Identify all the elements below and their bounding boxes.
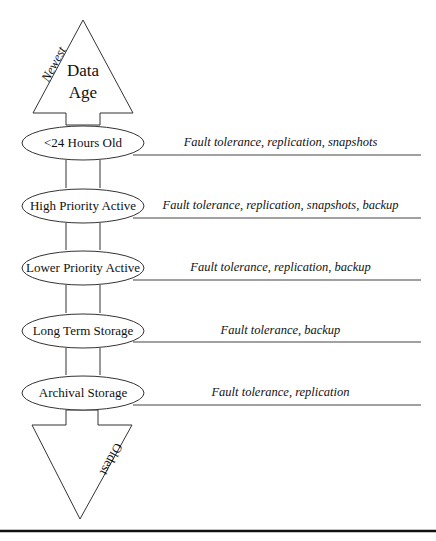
tier-label: Archival Storage (21, 385, 145, 401)
tier-protections: Fault tolerance, replication (140, 385, 421, 400)
title-line-2: Age (43, 82, 123, 104)
tier-protections: Fault tolerance, replication, snapshots (140, 135, 421, 150)
tier-label: Long Term Storage (21, 323, 145, 339)
tier-label: High Priority Active (21, 198, 145, 214)
tier-protections: Fault tolerance, replication, backup (140, 260, 421, 275)
leader-lines (133, 155, 421, 405)
tier-label: Lower Priority Active (21, 260, 145, 276)
tier-protections: Fault tolerance, replication, snapshots,… (140, 198, 421, 213)
tier-protections: Fault tolerance, backup (140, 323, 421, 338)
tier-label: <24 Hours Old (21, 135, 145, 151)
